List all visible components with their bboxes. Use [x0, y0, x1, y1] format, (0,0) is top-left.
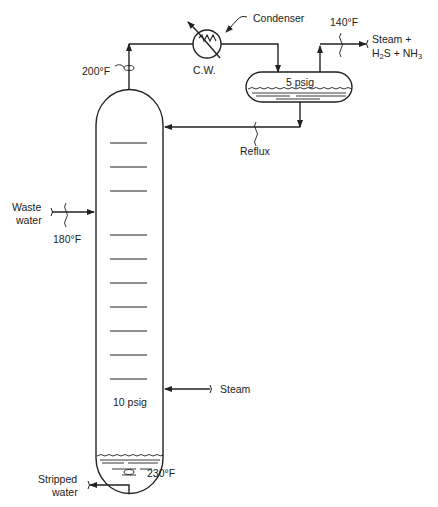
feed-label-line2: water: [16, 214, 42, 226]
column-pressure-label: 10 psig: [113, 396, 147, 408]
bottoms-label-line2: water: [52, 486, 78, 498]
condensate-line: [221, 44, 278, 72]
steam-inlet-label: Steam: [220, 383, 250, 395]
process-flow-diagram: [0, 0, 438, 507]
vent-stream-label-line2: H2S + NH3: [372, 47, 422, 59]
reflux-label: Reflux: [240, 145, 270, 157]
feed-label-line1: Waste: [12, 201, 41, 213]
stripping-column: [96, 89, 163, 493]
column-trays: [110, 143, 147, 379]
vent-temp-label: 140°F: [330, 16, 358, 28]
overhead-temp-label: 200°F: [82, 65, 110, 77]
bottoms-temp-label: 230°F: [147, 467, 175, 479]
cooling-water-label: C.W.: [193, 64, 216, 76]
drum-liquid-level: [248, 88, 352, 100]
condenser-label: Condenser: [253, 12, 304, 24]
feed-temp-label: 180°F: [53, 233, 81, 245]
bottoms-label-line1: Stripped: [38, 473, 77, 485]
vent-stream-label-line1: Steam +: [372, 33, 411, 45]
drum-pressure-label: 5 psig: [286, 76, 314, 88]
